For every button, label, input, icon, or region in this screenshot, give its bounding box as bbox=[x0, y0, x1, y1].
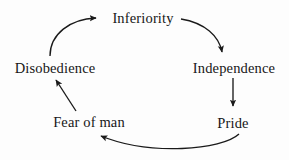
edge-fear-of-man-to-disobedience bbox=[56, 80, 76, 111]
edge-disobedience-to-inferiority bbox=[50, 18, 96, 56]
node-label-fear-of-man: Fear of man bbox=[53, 115, 125, 130]
cycle-diagram: Inferiority Independence Pride Fear of m… bbox=[0, 0, 289, 160]
edge-pride-to-fear-of-man bbox=[101, 134, 239, 149]
node-label-independence: Independence bbox=[193, 61, 275, 76]
node-label-pride: Pride bbox=[217, 116, 248, 131]
node-label-inferiority: Inferiority bbox=[112, 11, 173, 26]
node-label-disobedience: Disobedience bbox=[15, 61, 96, 76]
edge-inferiority-to-independence bbox=[181, 19, 222, 52]
